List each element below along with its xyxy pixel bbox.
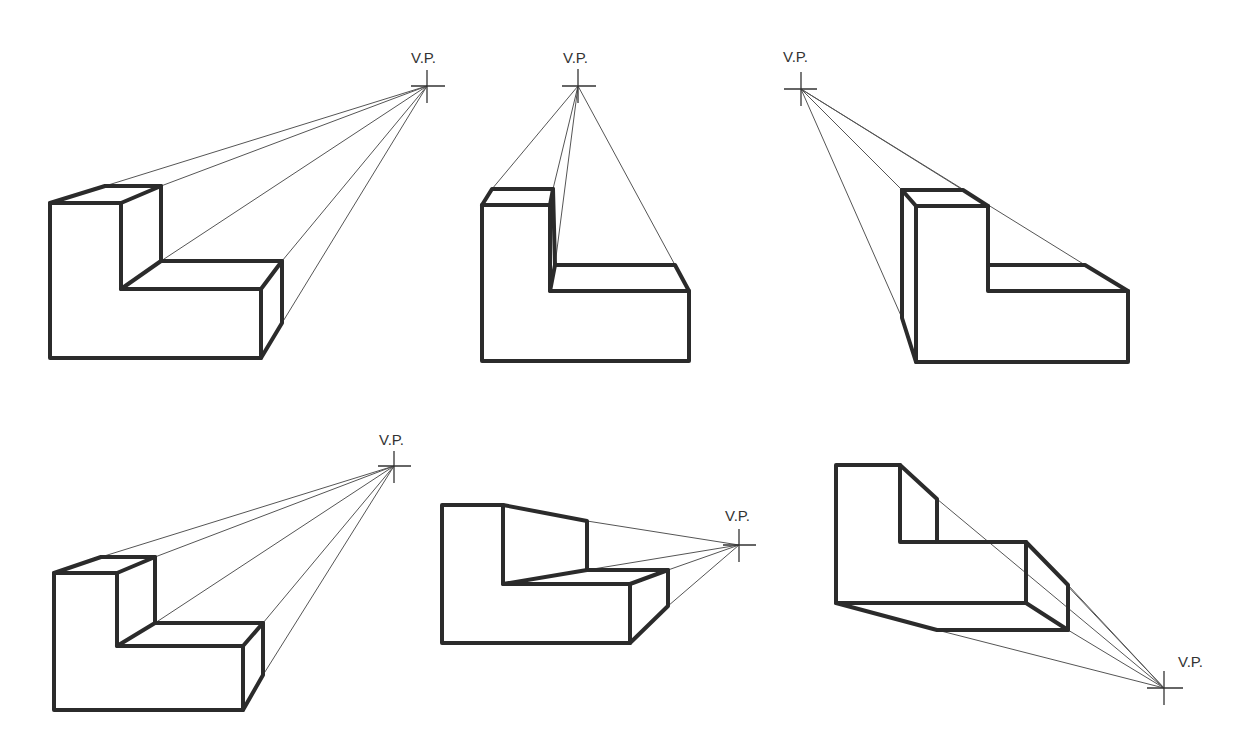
vanishing-point-marker: V.P. <box>783 48 817 106</box>
vanishing-point-marker: V.P. <box>378 431 411 483</box>
vp-label: V.P. <box>411 49 436 66</box>
vp-label: V.P. <box>1178 653 1203 670</box>
figure-3: V.P. <box>783 48 1128 362</box>
l-block <box>442 505 668 643</box>
l-block <box>836 465 1068 630</box>
figure-4: V.P. <box>54 431 411 710</box>
projection-lines <box>801 89 1085 318</box>
vp-label: V.P. <box>725 507 750 524</box>
figure-5: V.P. <box>442 505 756 643</box>
projection-lines <box>492 86 675 265</box>
l-block <box>50 186 282 358</box>
figure-2: V.P. <box>482 49 689 361</box>
projection-lines <box>937 499 1164 688</box>
l-block <box>482 189 689 361</box>
vanishing-point-marker: V.P. <box>562 49 596 103</box>
vanishing-point-marker: V.P. <box>411 49 445 103</box>
l-block <box>54 557 263 710</box>
projection-lines <box>587 521 739 606</box>
vp-label: V.P. <box>783 48 808 65</box>
vp-label: V.P. <box>379 431 404 448</box>
vp-label: V.P. <box>563 49 588 66</box>
figure-6: V.P. <box>836 465 1203 705</box>
vanishing-point-marker: V.P. <box>723 507 756 562</box>
perspective-diagram: V.P. V.P. <box>0 0 1247 753</box>
figure-1: V.P. <box>50 49 445 358</box>
l-block <box>902 190 1128 362</box>
